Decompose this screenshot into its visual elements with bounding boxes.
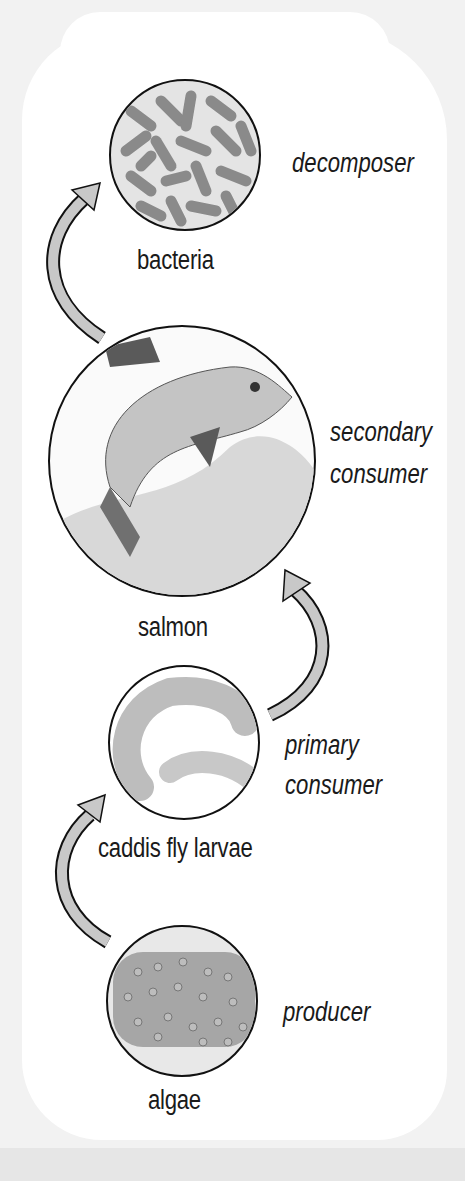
role-primary-consumer-line2: consumer: [285, 764, 382, 806]
caddis-circle: [108, 665, 260, 820]
role-secondary-consumer-line1: secondary: [330, 411, 432, 453]
background-panel-top: [60, 12, 390, 92]
algae-icon: [108, 927, 258, 1077]
algae-circle: [106, 925, 258, 1077]
label-caddis-fly-larvae: caddis fly larvae: [98, 833, 253, 864]
role-primary-consumer-line1: primary: [285, 724, 359, 766]
label-algae: algae: [148, 1085, 201, 1116]
role-decomposer: decomposer: [292, 142, 414, 184]
arrow-caddis-to-salmon: [265, 565, 345, 725]
bacteria-circle: [109, 79, 261, 231]
arrow-salmon-to-bacteria: [30, 178, 120, 348]
label-bacteria: bacteria: [137, 245, 214, 276]
role-producer: producer: [283, 991, 370, 1033]
salmon-icon: [50, 327, 316, 597]
role-secondary-consumer-line2: consumer: [330, 453, 427, 495]
bottom-band: [0, 1148, 465, 1181]
label-salmon: salmon: [138, 612, 208, 643]
caddis-fly-larvae-icon: [110, 667, 260, 820]
bacteria-icon: [111, 81, 261, 231]
salmon-circle: [48, 325, 316, 597]
arrow-algae-to-caddis: [40, 790, 120, 950]
